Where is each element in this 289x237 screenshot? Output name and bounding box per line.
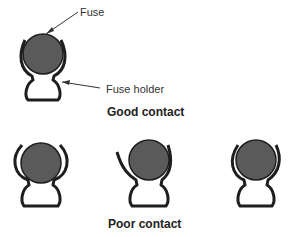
fuse-holder-label: Fuse holder: [106, 83, 164, 95]
poor-contact-fuse-2: [117, 140, 170, 206]
poor-contact-fuse-3: [232, 140, 279, 206]
fuse-label: Fuse: [80, 6, 104, 18]
poor-contact-caption: Poor contact: [108, 217, 181, 231]
good-contact-fuse-assembly: [21, 34, 65, 100]
poor-contact-fuse-1: [15, 143, 67, 206]
fuse-icon: [23, 34, 63, 74]
good-contact-caption: Good contact: [107, 105, 184, 119]
